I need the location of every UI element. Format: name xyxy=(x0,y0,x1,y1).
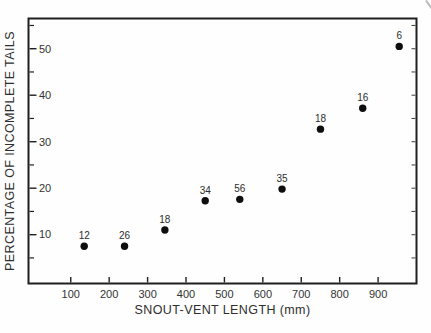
y-tick-label: 20 xyxy=(39,182,51,194)
data-point-label: 12 xyxy=(79,230,91,241)
data-point xyxy=(81,243,88,250)
x-axis-ticks: 100200300400500600700800900 xyxy=(62,277,388,300)
data-point xyxy=(121,243,128,250)
data-point xyxy=(396,43,403,50)
data-point-label: 26 xyxy=(119,230,131,241)
data-point-label: 56 xyxy=(234,183,246,194)
scatter-figure: 100200300400500600700800900 1020304050 1… xyxy=(0,0,431,333)
right-border-ticks xyxy=(412,25,416,257)
x-tick-label: 400 xyxy=(177,288,195,300)
x-tick-label: 600 xyxy=(254,288,272,300)
y-tick-label: 30 xyxy=(39,136,51,148)
data-point xyxy=(317,125,324,132)
y-tick-label: 50 xyxy=(39,43,51,55)
x-tick-label: 100 xyxy=(62,288,80,300)
scatter-chart: 100200300400500600700800900 1020304050 1… xyxy=(0,0,431,333)
y-tick-label: 40 xyxy=(39,89,51,101)
data-point-label: 34 xyxy=(200,185,212,196)
x-axis-title: SNOUT-VENT LENGTH (mm) xyxy=(135,303,311,317)
x-tick-label: 500 xyxy=(215,288,233,300)
data-points: 12261834563518166 xyxy=(79,30,403,250)
data-point-label: 18 xyxy=(159,214,171,225)
data-point xyxy=(161,226,168,233)
data-point xyxy=(202,197,209,204)
y-tick-label: 10 xyxy=(39,228,51,240)
data-point xyxy=(278,185,285,192)
x-tick-label: 800 xyxy=(330,288,348,300)
x-tick-label: 200 xyxy=(100,288,118,300)
y-axis-ticks: 1020304050 xyxy=(30,25,52,257)
x-tick-label: 700 xyxy=(292,288,310,300)
scan-artifact-mark xyxy=(426,1,431,10)
data-point-label: 18 xyxy=(315,113,327,124)
data-point xyxy=(236,196,243,203)
x-tick-label: 300 xyxy=(138,288,156,300)
data-point-label: 6 xyxy=(396,30,402,41)
y-axis-title: PERCENTAGE OF INCOMPLETE TAILS xyxy=(3,31,17,271)
data-point-label: 35 xyxy=(276,173,288,184)
data-point-label: 16 xyxy=(357,92,369,103)
x-tick-label: 900 xyxy=(369,288,387,300)
data-point xyxy=(359,105,366,112)
